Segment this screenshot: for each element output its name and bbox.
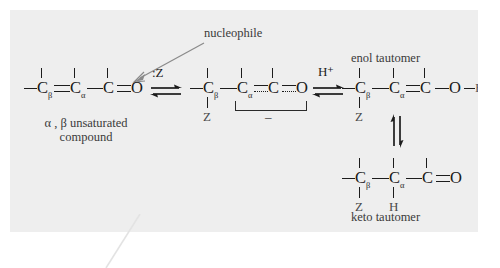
negative-charge: – [265,109,272,125]
atom-carbon-alpha: C [237,80,248,96]
bond [254,85,268,86]
subscript-beta: β [366,181,370,190]
bond [393,68,394,78]
atom-carbon-beta: C [37,80,48,96]
bond [393,187,394,198]
bond-double-lower [406,91,420,92]
bond [359,158,360,168]
atom-carbon-vinyl: C [420,80,431,96]
structure-enol: C β Z C α C O H [342,68,478,134]
bond [424,68,425,78]
bond [241,68,242,78]
atom-carbon-carbonyl: C [268,80,279,96]
atom-hydroxyl-hydrogen: H [475,81,478,95]
bond [372,178,389,179]
enol-tautomer-label: enol tautomer [351,51,420,65]
bond [74,68,75,78]
bond [342,88,355,89]
atom-oxygen: O [131,80,143,96]
atom-carbon-carbonyl: C [422,170,433,186]
bond [220,88,237,89]
reactant-caption-line1: α , β unsaturated [16,116,156,130]
bond [426,158,427,168]
bond [207,97,208,108]
bond [359,187,360,198]
bond-double-upper [117,85,131,86]
atom-carbon-alpha: C [389,170,400,186]
atom-carbon-carbonyl: C [103,80,114,96]
bond-double-lower [54,91,70,92]
bond [464,88,475,89]
proton-reagent-label: H⁺ [318,65,334,79]
atom-carbon-beta: C [355,80,366,96]
subscript-alpha: α [400,91,404,100]
bond-double-upper [54,85,70,86]
atom-carbon-beta: C [355,170,366,186]
bond [359,97,360,108]
bond [372,88,389,89]
equilibrium-arrow-vertical [388,114,406,148]
structure-reactant: C β C α C O [24,68,164,112]
bond [282,85,296,86]
bond [190,88,203,89]
bond [435,88,449,89]
reactant-caption-line2: compound [16,130,156,144]
bond [406,178,422,179]
bond-double-upper [436,175,450,176]
bond-partial [254,91,268,92]
substituent-z: Z [203,110,211,123]
bond [24,88,37,89]
structure-enolate: C β Z C α C O – [190,68,325,134]
bond [342,178,355,179]
atom-carbon-beta: C [203,80,214,96]
bond [393,158,394,168]
chemistry-diagram-panel: nucleophile C β C α C O α , β unsat [10,10,478,232]
atom-oxygen: O [296,80,308,96]
bond [359,68,360,78]
bond-double-lower [117,91,131,92]
keto-tautomer-label: keto tautomer [351,210,420,224]
bond [87,88,103,89]
subscript-alpha: α [400,181,404,190]
bond-double-upper [406,85,420,86]
bond [107,68,108,78]
bond-double-lower [436,181,450,182]
substituent-z: Z [355,110,363,123]
bond [41,68,42,78]
subscript-alpha: α [248,91,252,100]
equilibrium-arrow-1 [149,82,183,100]
equilibrium-arrow-2 [311,82,345,100]
atom-carbon-alpha: C [389,80,400,96]
bond [272,68,273,78]
subscript-beta: β [214,91,218,100]
nucleophile-label: nucleophile [204,26,262,40]
atom-oxygen: O [449,80,461,96]
bond-partial [282,91,296,92]
nucleophile-reagent-label: :Z [152,66,164,80]
subscript-beta: β [48,91,52,100]
atom-oxygen: O [450,170,462,186]
subscript-beta: β [366,91,370,100]
atom-carbon-alpha: C [70,80,81,96]
bond [207,68,208,78]
subscript-alpha: α [81,91,85,100]
